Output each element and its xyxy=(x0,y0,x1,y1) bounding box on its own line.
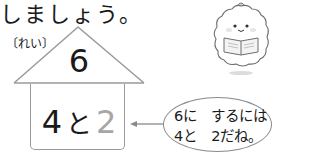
reading-character-icon xyxy=(210,0,273,78)
speech-line-1: 6に するには xyxy=(174,106,267,126)
roof-number: 6 xyxy=(64,42,94,80)
speech-line-2: 4と 2だね。 xyxy=(174,126,267,146)
part-right: 2 xyxy=(96,103,116,141)
house-box-content: 4 と 2 xyxy=(34,103,124,141)
arrow-head-icon xyxy=(130,121,137,127)
part-left: 4 xyxy=(42,103,62,141)
speech-bubble-text: 6に するには 4と 2だね。 xyxy=(174,106,267,146)
part-connector: と xyxy=(66,103,92,140)
